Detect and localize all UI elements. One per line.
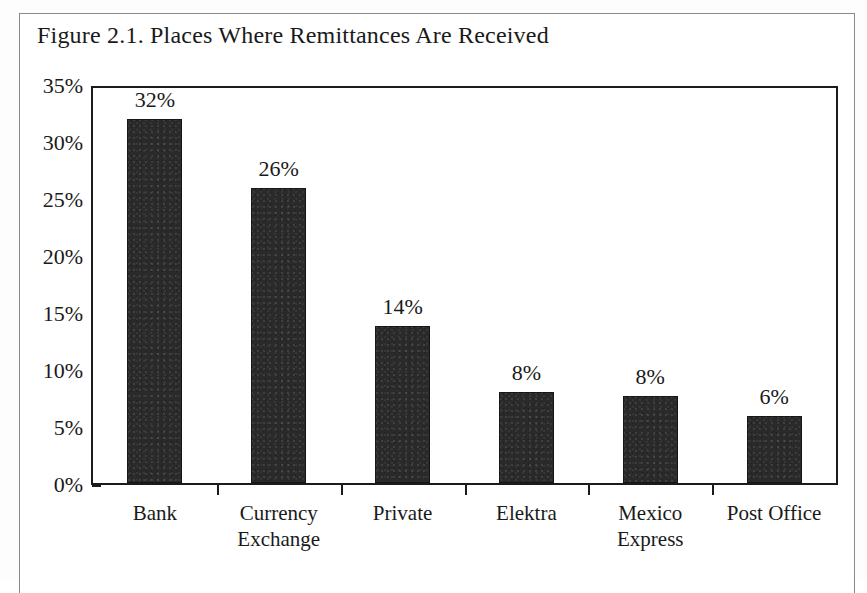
bar (623, 396, 678, 483)
plot-area (93, 88, 836, 483)
bar-value-label: 32% (97, 89, 212, 111)
x-axis-tick-mark (588, 485, 590, 495)
y-axis: 35%30%25%20%15%10%5%0% (8, 0, 83, 580)
y-axis-tick-label: 20% (13, 246, 83, 268)
y-axis-tick-label: 10% (13, 360, 83, 382)
x-axis-tick-mark (217, 485, 219, 495)
bar (499, 392, 554, 483)
x-axis-category-label: Post Office (698, 500, 850, 526)
x-axis-tick-mark (465, 485, 467, 495)
y-axis-tick-label: 15% (13, 303, 83, 325)
y-axis-tick-label: 25% (13, 189, 83, 211)
bar-value-label: 8% (469, 362, 584, 384)
bar-value-label: 8% (593, 366, 708, 388)
y-axis-tick-mark (92, 485, 101, 487)
bar (747, 416, 802, 483)
bar (375, 326, 430, 483)
bar-value-label: 6% (717, 386, 832, 408)
bar (251, 188, 306, 483)
bar-value-label: 14% (345, 296, 460, 318)
y-axis-tick-label: 35% (13, 75, 83, 97)
bar (127, 119, 182, 483)
y-axis-tick-label: 0% (13, 474, 83, 496)
y-axis-tick-label: 5% (13, 417, 83, 439)
x-axis-tick-mark (712, 485, 714, 495)
x-axis-tick-mark (341, 485, 343, 495)
y-axis-tick-label: 30% (13, 132, 83, 154)
bar-value-label: 26% (221, 158, 336, 180)
